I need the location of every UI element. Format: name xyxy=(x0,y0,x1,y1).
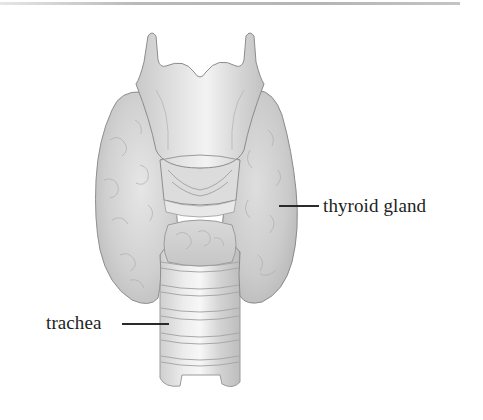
trachea-label: trachea xyxy=(46,313,102,332)
thyroid-cartilage-shape xyxy=(136,33,264,168)
trachea-leader-line xyxy=(122,323,169,325)
thyroid-gland-label: thyroid gland xyxy=(323,196,426,215)
isthmus-shape xyxy=(164,220,236,266)
thyroid-leader-line xyxy=(279,205,319,207)
